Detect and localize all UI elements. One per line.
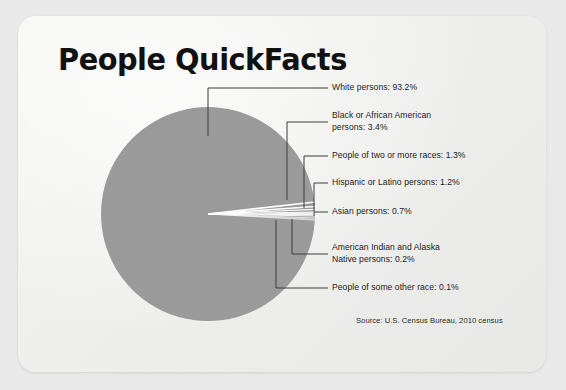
pie-label-line1: Hispanic or Latino persons: 1.2% <box>332 177 460 187</box>
pie-label-american-indian-alaska-native: American Indian and Alaska Native person… <box>332 242 440 265</box>
pie-label-line1: American Indian and Alaska <box>332 242 440 252</box>
pie-label-line1: White persons: 93.2% <box>332 82 417 92</box>
pie-label-line2: persons: 3.4% <box>332 122 431 134</box>
pie-label-some-other-race: People of some other race: 0.1% <box>332 282 459 294</box>
pie-label-line1: Asian persons: 0.7% <box>332 206 412 216</box>
pie-label-line1: People of some other race: 0.1% <box>332 282 459 292</box>
leader-line-hispanic-or-latino <box>314 183 328 211</box>
pie-label-black-or-african-american: Black or African American persons: 3.4% <box>332 110 431 133</box>
pie-label-hispanic-or-latino: Hispanic or Latino persons: 1.2% <box>332 177 460 189</box>
quickfacts-card: People QuickFacts <box>18 16 546 372</box>
pie-label-white-persons: White persons: 93.2% <box>332 82 417 94</box>
pie-label-asian: Asian persons: 0.7% <box>332 206 412 218</box>
pie-label-two-or-more-races: People of two or more races: 1.3% <box>332 150 466 162</box>
leader-line-asian <box>314 212 328 216</box>
pie-label-line1: Black or African American <box>332 110 431 120</box>
source-note: Source: U.S. Census Bureau, 2010 census <box>356 316 503 325</box>
pie-label-line1: People of two or more races: 1.3% <box>332 150 466 160</box>
pie-label-line2: Native persons: 0.2% <box>332 254 440 266</box>
